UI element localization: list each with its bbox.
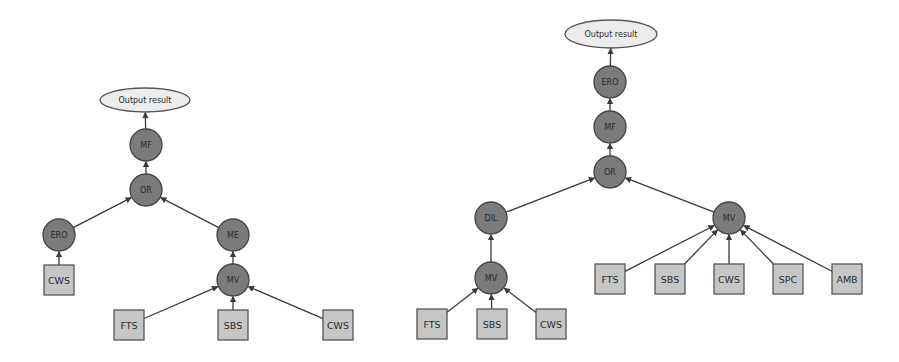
input-node-cws: CWS [714, 264, 744, 294]
node-label: MF [604, 123, 616, 132]
input-node-cws: CWS [536, 309, 566, 339]
node-label: CWS [327, 320, 349, 331]
process-node-or: OR [594, 156, 626, 188]
node-label: ERO [602, 78, 619, 87]
node-label: MV [723, 214, 736, 223]
output-result-label: Output result [585, 30, 638, 39]
node-label: FTS [601, 274, 618, 285]
node-label: OR [140, 186, 152, 195]
node-label: AMB [836, 274, 857, 285]
edge-arrow [144, 287, 218, 319]
edge-arrow [73, 198, 131, 228]
process-node-or: OR [130, 174, 162, 206]
edge-arrow [625, 178, 714, 212]
node-label: ERO [51, 231, 68, 240]
output-result-node: Output result [565, 20, 657, 48]
node-label: OR [604, 168, 616, 177]
node-label: MF [140, 141, 152, 150]
process-node-ero: ERO [594, 66, 626, 98]
node-label: FTS [120, 320, 137, 331]
input-node-sbs: SBS [655, 264, 685, 294]
node-label: FTS [423, 319, 440, 330]
edge-arrow [740, 230, 773, 264]
input-node-fts: FTS [417, 309, 447, 339]
edge-arrow [447, 288, 478, 312]
process-node-me: ME [217, 219, 249, 251]
input-node-amb: AMB [832, 264, 862, 294]
input-node-fts: FTS [595, 264, 625, 294]
output-result-label: Output result [119, 96, 172, 105]
edge-arrow [504, 288, 536, 312]
input-node-cws: CWS [323, 310, 353, 340]
process-node-mv: MV [475, 262, 507, 294]
node-label: SBS [224, 320, 242, 331]
node-label: MV [227, 276, 240, 285]
process-node-mv: MV [217, 264, 249, 296]
process-node-mf: MF [130, 129, 162, 161]
process-node-mv: MV [713, 202, 745, 234]
edge-arrow [161, 198, 219, 228]
input-node-sbs: SBS [477, 309, 507, 339]
diagram-canvas: Output resultMFOREROMEMVCWSFTSSBSCWS Out… [0, 0, 899, 362]
output-result-node: Output result [100, 88, 190, 112]
node-label: ME [227, 231, 239, 240]
process-node-dil: DIL [475, 202, 507, 234]
edge-arrow [248, 286, 323, 318]
node-label: CWS [540, 319, 562, 330]
right-flow-diagram: Output resultEROMFORDILMVMVFTSSBSCWSFTSS… [417, 20, 862, 339]
node-label: DIL [485, 214, 499, 223]
input-node-sbs: SBS [218, 310, 248, 340]
node-label: SBS [483, 319, 501, 330]
node-label: CWS [48, 275, 70, 286]
process-node-mf: MF [594, 111, 626, 143]
process-node-ero: ERO [43, 219, 75, 251]
edge-arrow [506, 178, 595, 212]
input-node-cws: CWS [44, 265, 74, 295]
input-node-spc: SPC [773, 264, 803, 294]
edge-arrow [685, 230, 718, 264]
node-label: SBS [661, 274, 679, 285]
node-label: MV [485, 274, 498, 283]
node-label: SPC [779, 274, 798, 285]
input-node-fts: FTS [114, 310, 144, 340]
node-label: CWS [718, 274, 740, 285]
left-flow-diagram: Output resultMFOREROMEMVCWSFTSSBSCWS [43, 88, 353, 340]
